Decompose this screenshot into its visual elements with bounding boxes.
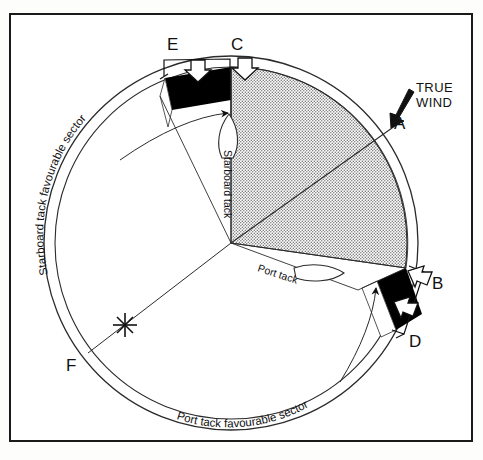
sailing-sector-diagram: Starboard tack favourable sector Port ta… (0, 0, 483, 460)
true-wind-label-line1: TRUE (416, 80, 453, 95)
cross-mark-f (113, 313, 137, 337)
port-sector-caption-text: Port tack favourable sector (176, 398, 310, 430)
boat-hull-port (294, 265, 344, 281)
no-go-stippled-sector (231, 67, 408, 268)
figure-canvas: Starboard tack favourable sector Port ta… (0, 0, 483, 460)
point-label-c: C (231, 35, 243, 54)
point-label-d: D (409, 332, 421, 351)
point-label-b: B (432, 274, 443, 293)
point-label-a: A (394, 114, 406, 133)
port-tack-caption: Port tack (256, 261, 300, 285)
starboard-sector-caption-text: Starboard tack favourable sector (33, 112, 88, 277)
starboard-layline-arc (120, 113, 228, 160)
starboard-sector-caption: Starboard tack favourable sector (33, 112, 88, 277)
point-label-f: F (66, 356, 76, 375)
true-wind-label-line2: WIND (416, 95, 452, 110)
point-label-e: E (167, 35, 178, 54)
starboard-tack-caption: Starboard tack (222, 150, 234, 219)
port-sector-caption: Port tack favourable sector (176, 398, 310, 430)
